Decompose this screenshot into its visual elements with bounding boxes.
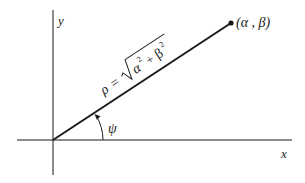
equals-sign: =: [107, 74, 122, 91]
polar-diagram: y x ψ (α , β) ρ = α 2 + β 2: [0, 0, 305, 183]
angle-arc: [97, 116, 104, 140]
rho-formula: ρ = α 2 + β 2: [93, 34, 176, 98]
rho-symbol: ρ: [97, 81, 112, 98]
arrowhead-icon: [95, 114, 101, 120]
y-axis-label: y: [56, 13, 64, 28]
x-axis-label: x: [280, 146, 287, 161]
angle-label: ψ: [108, 121, 117, 136]
point-label: (α , β): [236, 15, 270, 31]
point-marker: [228, 20, 233, 25]
radius-segment: [53, 23, 231, 140]
